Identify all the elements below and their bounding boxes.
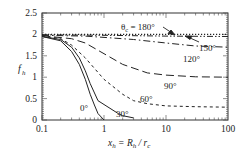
y-tick: 2.5 bbox=[25, 8, 37, 18]
y-tick: 2 bbox=[32, 29, 37, 39]
x-tick: 1 bbox=[102, 124, 107, 134]
label-180: θc = 180° bbox=[121, 22, 155, 33]
svg-text:h: h bbox=[22, 69, 26, 77]
y-tick: 0.5 bbox=[25, 94, 37, 104]
x-tick-labels: 0.1 1 10 100 bbox=[36, 124, 235, 134]
label-150: 150° bbox=[199, 43, 217, 53]
label-120: 120° bbox=[183, 54, 201, 64]
x-tick: 0.1 bbox=[36, 124, 48, 134]
x-axis-label: xh = Rh / rc bbox=[107, 138, 151, 150]
label-60: 60° bbox=[140, 94, 153, 104]
y-axis-label: f h bbox=[18, 63, 26, 77]
label-0: 0° bbox=[80, 103, 89, 113]
y-tick-labels: 0 0.5 1 1.5 2 2.5 bbox=[25, 8, 37, 125]
chart: 0 0.5 1 1.5 2 2.5 0.1 1 10 100 f h xh = … bbox=[0, 0, 243, 158]
x-tick: 10 bbox=[161, 124, 171, 134]
label-90: 90° bbox=[164, 81, 177, 91]
y-tick: 1.5 bbox=[25, 51, 37, 61]
y-tick: 1 bbox=[32, 72, 37, 82]
label-30: 30° bbox=[116, 109, 129, 119]
x-tick: 100 bbox=[221, 124, 236, 134]
arrow-head-icon bbox=[185, 36, 192, 40]
curve-150 bbox=[42, 35, 228, 37]
